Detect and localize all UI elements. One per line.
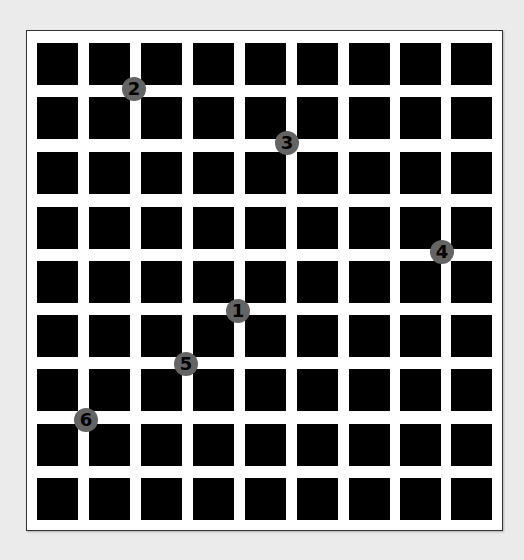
grid-square — [297, 369, 338, 411]
grid-square — [451, 478, 492, 520]
grid-square — [245, 207, 286, 249]
grid-square — [193, 315, 234, 357]
grid-square — [193, 43, 234, 85]
grid-square — [400, 315, 441, 357]
grid-square — [349, 478, 390, 520]
grid-square — [400, 97, 441, 139]
grid-square — [141, 369, 182, 411]
grid-square — [37, 478, 78, 520]
grid-square — [245, 424, 286, 466]
grid-square — [37, 97, 78, 139]
grid-square — [37, 369, 78, 411]
grid-square — [141, 97, 182, 139]
grid-square — [349, 97, 390, 139]
grid-square — [37, 152, 78, 194]
grid-square — [245, 478, 286, 520]
grid-square — [141, 152, 182, 194]
grid-square — [89, 97, 130, 139]
grid-square — [245, 152, 286, 194]
grid-square — [297, 43, 338, 85]
grid-square — [193, 97, 234, 139]
grid-square — [349, 369, 390, 411]
grid-square — [89, 478, 130, 520]
grid-square — [297, 478, 338, 520]
grid-square — [451, 97, 492, 139]
grid-square — [451, 315, 492, 357]
grid-square — [89, 43, 130, 85]
grid-square — [400, 43, 441, 85]
grid-square — [193, 261, 234, 303]
grid-square — [349, 152, 390, 194]
grid-square — [89, 315, 130, 357]
grid-square — [297, 261, 338, 303]
marker-1: 1 — [226, 299, 250, 323]
grid-square — [193, 152, 234, 194]
grid-square — [141, 207, 182, 249]
grid-square — [193, 369, 234, 411]
grid-square — [451, 152, 492, 194]
grid-square — [37, 207, 78, 249]
grid-square — [297, 152, 338, 194]
grid-square — [297, 207, 338, 249]
grid-square — [37, 424, 78, 466]
grid-square — [37, 261, 78, 303]
grid-square — [245, 43, 286, 85]
grid-square — [349, 315, 390, 357]
grid-square — [297, 424, 338, 466]
grid-square — [349, 43, 390, 85]
grid-square — [451, 369, 492, 411]
grid-square — [245, 261, 286, 303]
grid-square — [245, 369, 286, 411]
grid-square — [297, 97, 338, 139]
grid-square — [37, 315, 78, 357]
grid-square — [349, 424, 390, 466]
marker-5: 5 — [174, 352, 198, 376]
grid-square — [400, 424, 441, 466]
marker-3: 3 — [275, 131, 299, 155]
grid-square — [400, 152, 441, 194]
grid-square — [451, 207, 492, 249]
grid-square — [37, 43, 78, 85]
grid-square — [89, 207, 130, 249]
grid-square — [141, 43, 182, 85]
grid-square — [89, 369, 130, 411]
grid-square — [349, 261, 390, 303]
grid-square — [400, 261, 441, 303]
grid-square — [89, 261, 130, 303]
marker-4: 4 — [430, 240, 454, 264]
grid-square — [349, 207, 390, 249]
grid-square — [400, 369, 441, 411]
marker-2: 2 — [122, 77, 146, 101]
grid-square — [400, 478, 441, 520]
grid-square — [141, 261, 182, 303]
grid-square — [193, 207, 234, 249]
grid-square — [141, 424, 182, 466]
grid-square — [451, 261, 492, 303]
grid-square — [245, 315, 286, 357]
grid-square — [141, 315, 182, 357]
marker-6: 6 — [74, 408, 98, 432]
grid-square — [451, 424, 492, 466]
grid-square — [141, 478, 182, 520]
grid-square — [89, 424, 130, 466]
grid-square — [297, 315, 338, 357]
grid-square — [193, 478, 234, 520]
grid-square — [451, 43, 492, 85]
grid-square — [193, 424, 234, 466]
grid-square — [89, 152, 130, 194]
